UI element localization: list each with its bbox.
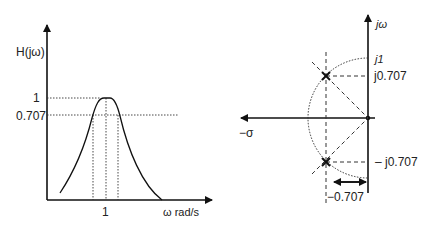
lower-radial-dashed-line (312, 118, 368, 174)
x-tick-1: 1 (102, 206, 109, 218)
j1-label: j1 (375, 53, 384, 65)
x-axis-label: ω rad/s (163, 206, 199, 218)
y-tick-0707: 0.707 (16, 110, 46, 122)
pole-zero-plot (241, 15, 375, 205)
real-axis-label: −σ (239, 127, 253, 139)
y-axis-label: H(jω) (16, 46, 45, 58)
frequency-response-plot (47, 25, 212, 200)
y-tick-1: 1 (33, 92, 40, 104)
bandpass-response-curve (60, 98, 162, 200)
j0707-pos-label: j0.707 (374, 70, 407, 82)
upper-radial-dashed-line (312, 62, 368, 118)
imaginary-axis-label: jω (376, 18, 387, 30)
j0707-neg-label: – j0.707 (375, 156, 418, 168)
sigma-0707-label: −0.707 (327, 191, 364, 203)
